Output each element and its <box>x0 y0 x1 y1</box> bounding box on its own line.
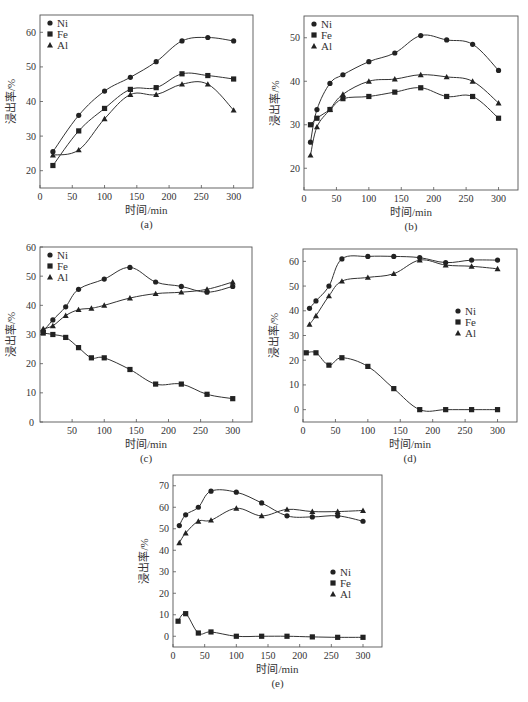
data-point-ni <box>102 276 107 281</box>
data-point-al <box>208 517 214 522</box>
legend-label-al: Al <box>321 40 332 52</box>
x-tick-label: 50 <box>200 650 210 661</box>
series-ni <box>41 265 236 334</box>
y-tick-label: 10 <box>26 387 36 398</box>
data-point-fe <box>47 263 52 268</box>
y-tick-label: 50 <box>26 61 36 72</box>
y-tick-label: 50 <box>26 271 36 282</box>
x-axis-label: 时间/min <box>125 204 168 216</box>
data-point-fe <box>63 335 68 340</box>
x-tick-label: 50 <box>330 425 340 436</box>
chart-caption: (e) <box>271 677 284 690</box>
data-point-fe <box>102 355 107 360</box>
y-tick-label: 10 <box>289 379 299 390</box>
data-point-ni <box>314 107 319 112</box>
data-point-ni <box>63 304 68 309</box>
data-point-ni <box>392 50 397 55</box>
legend-label-al: Al <box>57 271 68 283</box>
data-point-ni <box>177 523 182 528</box>
data-point-al <box>470 78 476 83</box>
legend: NiFeAl <box>455 305 476 339</box>
data-point-ni <box>234 490 239 495</box>
x-tick-label: 300 <box>226 191 241 202</box>
y-tick-label: 30 <box>290 119 300 130</box>
x-tick-label: 300 <box>490 425 505 436</box>
data-point-ni <box>335 513 340 518</box>
plot-frame <box>40 15 253 188</box>
x-tick-label: 300 <box>491 193 506 204</box>
data-point-fe <box>418 85 423 90</box>
x-tick-label: 200 <box>425 425 440 436</box>
data-point-ni <box>495 258 500 263</box>
data-point-ni <box>259 500 264 505</box>
plot-frame <box>173 475 382 647</box>
x-tick-label: 50 <box>67 191 77 202</box>
data-point-fe <box>127 367 132 372</box>
data-point-ni <box>179 284 184 289</box>
chart-caption: (d) <box>404 452 417 465</box>
data-point-ni <box>365 254 370 259</box>
data-point-ni <box>311 21 316 26</box>
data-point-ni <box>391 254 396 259</box>
data-point-fe <box>234 634 239 639</box>
series-fe <box>304 350 501 412</box>
chart-panel-e: 050100150200250300010203040506070NiFeAl浸… <box>133 460 402 692</box>
x-tick-label: 50 <box>67 425 77 436</box>
legend: NiFeAl <box>47 17 68 51</box>
series-ni <box>307 254 500 311</box>
chart-svg: 0501001502002503002030405060NiFeAl浸出率/%时… <box>0 0 273 233</box>
series-ni <box>308 33 501 145</box>
x-tick-label: 150 <box>129 425 144 436</box>
x-tick-label: 50 <box>331 193 341 204</box>
chart-panel-a: 0501001502002503002030405060NiFeAl浸出率/%时… <box>0 0 273 233</box>
data-point-al <box>47 42 53 47</box>
data-point-fe <box>183 611 188 616</box>
data-point-fe <box>76 345 81 350</box>
data-point-fe <box>179 71 184 76</box>
legend: NiFeAl <box>330 566 351 600</box>
data-point-ni <box>205 35 210 40</box>
y-tick-label: 30 <box>159 566 169 577</box>
chart-svg: 501001502002503000102030405060NiFeAl浸出率/… <box>0 232 272 467</box>
data-point-ni <box>76 113 81 118</box>
x-tick-label: 0 <box>38 191 43 202</box>
x-tick-label: 100 <box>97 191 112 202</box>
series-al <box>307 72 501 158</box>
data-point-fe <box>496 116 501 121</box>
data-point-ni <box>47 20 52 25</box>
data-point-ni <box>313 298 318 303</box>
data-point-al <box>330 591 336 596</box>
data-point-fe <box>340 96 345 101</box>
x-tick-label: 100 <box>361 193 376 204</box>
x-tick-label: 300 <box>356 650 371 661</box>
x-tick-label: 200 <box>162 191 177 202</box>
data-point-ni <box>327 81 332 86</box>
data-point-fe <box>313 350 318 355</box>
chart-svg: 050100150200250300010203040506070NiFeAl浸… <box>133 460 402 692</box>
data-point-fe <box>154 85 159 90</box>
legend-label-al: Al <box>340 588 351 600</box>
data-point-fe <box>495 407 500 412</box>
data-point-ni <box>339 256 344 261</box>
legend: NiFeAl <box>311 18 332 52</box>
data-point-ni <box>310 514 315 519</box>
y-tick-label: 40 <box>26 96 36 107</box>
data-point-fe <box>339 355 344 360</box>
y-tick-label: 10 <box>159 609 169 620</box>
data-point-fe <box>304 350 309 355</box>
data-point-ni <box>231 38 236 43</box>
data-point-fe <box>230 396 235 401</box>
y-tick-label: 40 <box>26 300 36 311</box>
series-fe <box>175 611 365 640</box>
x-tick-label: 100 <box>229 650 244 661</box>
data-point-fe <box>153 381 158 386</box>
y-tick-label: 40 <box>289 305 299 316</box>
y-tick-label: 70 <box>159 480 169 491</box>
data-point-fe <box>308 122 313 127</box>
data-point-fe <box>204 392 209 397</box>
y-axis-label: 浸出率/% <box>4 79 17 124</box>
data-point-ni <box>307 306 312 311</box>
chart-caption: (b) <box>405 220 418 233</box>
data-point-fe <box>443 407 448 412</box>
data-point-ni <box>230 284 235 289</box>
